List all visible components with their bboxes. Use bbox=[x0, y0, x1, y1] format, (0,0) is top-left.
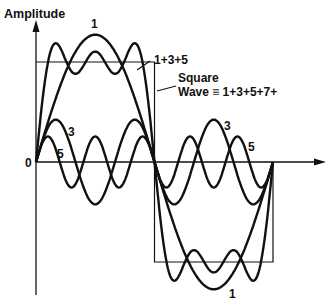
x-axis-arrow-icon bbox=[314, 159, 326, 166]
y-axis-label: Amplitude bbox=[4, 8, 65, 21]
square-label-line1: Square bbox=[178, 72, 219, 84]
third-harmonic-label-right: 3 bbox=[224, 120, 231, 132]
square-label-line2: Wave ≡ 1+3+5+7+ bbox=[178, 86, 277, 98]
third-harmonic-label: 3 bbox=[68, 126, 75, 138]
fourier-diagram: Amplitude 0 1 1 1+3+5 Square Wave ≡ 1+3+… bbox=[0, 0, 332, 307]
sum-label: 1+3+5 bbox=[154, 54, 188, 66]
y-axis-arrow-icon bbox=[33, 20, 40, 32]
fifth-harmonic-label-right: 5 bbox=[248, 141, 255, 153]
fundamental-label-top: 1 bbox=[91, 18, 98, 30]
plot-area bbox=[0, 0, 332, 307]
origin-label: 0 bbox=[25, 157, 32, 169]
fifth-harmonic-label: 5 bbox=[57, 148, 64, 160]
fundamental-label-bottom: 1 bbox=[229, 288, 236, 300]
square-pointer bbox=[157, 86, 176, 91]
